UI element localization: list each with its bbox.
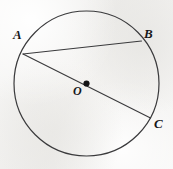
point-label-a: A: [13, 28, 22, 41]
geometry-figure: A B C O: [0, 0, 173, 169]
point-label-c: C: [154, 117, 163, 130]
point-label-b: B: [144, 27, 153, 40]
center-point-dot: [83, 80, 89, 86]
point-label-o: O: [73, 85, 82, 97]
chord-segment-ab: [23, 41, 142, 54]
